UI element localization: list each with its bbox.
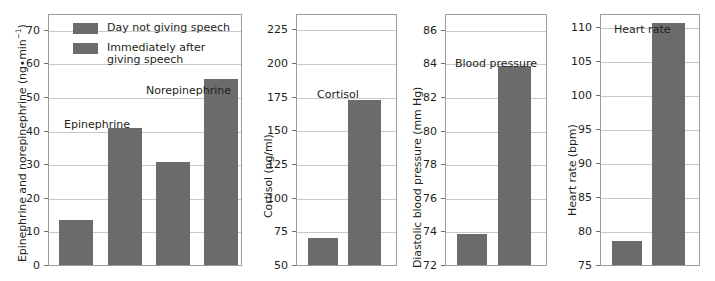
multi-panel-bar-chart-figure: Epinephrine and norepinephrine (ng•min−1… [0, 0, 715, 281]
legend-swatch [73, 43, 98, 54]
legend-label: Day not giving speech [107, 22, 230, 34]
legend-label: Immediately after giving speech [107, 42, 205, 65]
legend: Day not giving speechImmediately after g… [0, 0, 715, 281]
legend-swatch [73, 23, 98, 34]
legend-item: Immediately after giving speech [73, 42, 205, 65]
legend-item: Day not giving speech [73, 22, 230, 34]
